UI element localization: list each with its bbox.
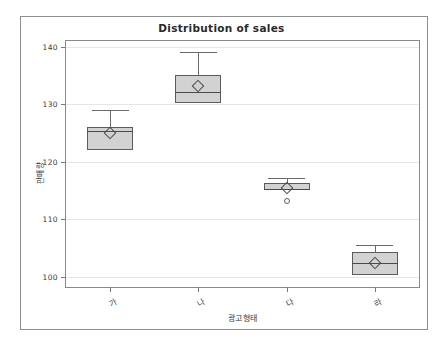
x-tick-mark: [110, 287, 111, 292]
chart-title: Distribution of sales: [0, 22, 443, 34]
x-tick-mark: [375, 287, 376, 292]
plot-area: 100110120130140가나다라: [65, 40, 420, 288]
y-tick-mark: [61, 162, 65, 163]
y-tick-label: 100: [42, 272, 58, 281]
y-tick-mark: [61, 219, 65, 220]
y-tick-mark: [61, 104, 65, 105]
boxplot-group[interactable]: [66, 41, 419, 287]
y-tick-label: 130: [42, 100, 58, 109]
x-tick-mark: [287, 287, 288, 292]
x-tick-mark: [198, 287, 199, 292]
chart-page: Distribution of sales 판매량 10011012013014…: [0, 0, 443, 346]
y-tick-mark: [61, 47, 65, 48]
whisker-cap-upper: [356, 245, 393, 246]
y-tick-label: 110: [42, 215, 58, 224]
y-tick-label: 140: [42, 42, 58, 51]
whisker-line-upper: [375, 245, 376, 252]
x-axis-title: 광고형태: [65, 312, 420, 323]
y-tick-label: 120: [42, 157, 58, 166]
y-tick-mark: [61, 277, 65, 278]
